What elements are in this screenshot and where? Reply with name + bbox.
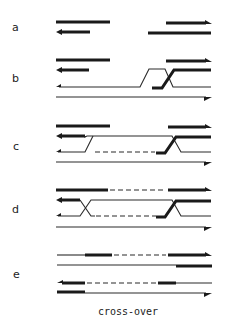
- panel-label-a: a: [12, 21, 19, 34]
- recombination-diagram: a b c d e: [0, 0, 225, 329]
- arrowhead-right-icon: [205, 20, 212, 24]
- caption: cross-over: [98, 306, 158, 317]
- panel-label-b: b: [12, 72, 19, 85]
- panel-e: [57, 252, 212, 297]
- panel-label-d: d: [12, 203, 19, 216]
- panel-b: [56, 58, 212, 101]
- panel-label-c: c: [13, 140, 19, 153]
- panel-d: [56, 187, 212, 231]
- panel-a: [56, 20, 212, 35]
- panel-c: [56, 124, 212, 166]
- arrowhead-left-icon: [56, 29, 62, 35]
- panel-label-e: e: [13, 268, 20, 281]
